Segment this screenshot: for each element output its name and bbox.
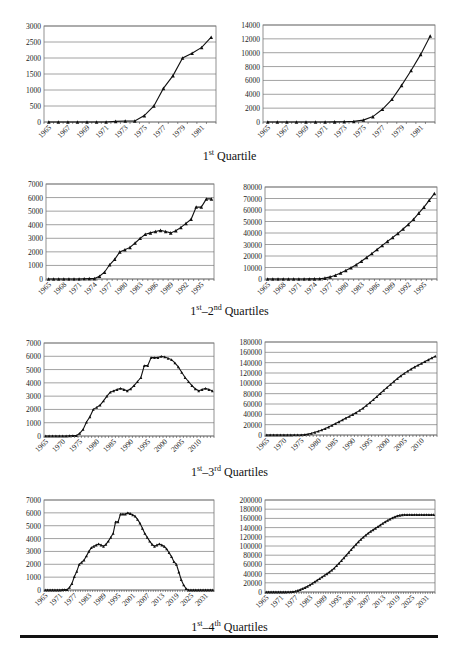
svg-text:1980: 1980: [333, 280, 350, 297]
svg-text:6000: 6000: [28, 194, 43, 203]
svg-text:1989: 1989: [158, 280, 175, 297]
chart-q1-annual: 0500100015002000250030001965196719691971…: [0, 0, 230, 140]
svg-text:30000: 30000: [243, 241, 262, 250]
svg-text:2000: 2000: [26, 560, 41, 569]
svg-text:2000: 2000: [245, 104, 260, 113]
svg-text:80000: 80000: [243, 390, 262, 399]
svg-text:2001: 2001: [120, 591, 137, 608]
svg-text:1968: 1968: [51, 280, 68, 297]
svg-text:80000: 80000: [243, 551, 262, 560]
svg-text:1971: 1971: [268, 593, 285, 610]
chart-q12-cumulative: 0100002000030000400005000060000700008000…: [229, 165, 459, 300]
svg-text:80000: 80000: [243, 183, 262, 192]
svg-text:7000: 7000: [28, 180, 43, 189]
svg-text:1979: 1979: [170, 123, 187, 140]
svg-text:1971: 1971: [286, 280, 303, 297]
svg-text:1983: 1983: [128, 280, 145, 297]
svg-text:1995: 1995: [189, 280, 206, 297]
svg-text:0: 0: [256, 118, 260, 127]
svg-text:1000: 1000: [26, 419, 41, 428]
svg-text:1977: 1977: [370, 123, 387, 140]
svg-text:500: 500: [30, 102, 42, 111]
svg-text:2007: 2007: [356, 593, 373, 610]
svg-text:40000: 40000: [243, 410, 262, 419]
caption-label: Quartiles: [222, 304, 269, 318]
svg-text:1969: 1969: [293, 123, 310, 140]
svg-text:3000: 3000: [26, 22, 41, 31]
svg-text:2031: 2031: [193, 591, 210, 608]
caption-q12: 1st–2nd Quartiles: [0, 303, 459, 319]
caption-q1234: 1st–4th Quartiles: [0, 619, 459, 635]
svg-text:1000: 1000: [28, 261, 43, 270]
svg-text:2000: 2000: [152, 437, 169, 454]
chart-q1234-annual: 0100020003000400050006000700019651971197…: [0, 485, 230, 620]
svg-text:2000: 2000: [26, 54, 41, 63]
svg-text:1973: 1973: [113, 123, 130, 140]
svg-text:60000: 60000: [243, 206, 262, 215]
svg-text:1980: 1980: [112, 280, 129, 297]
svg-text:2025: 2025: [178, 591, 195, 608]
svg-text:1973: 1973: [332, 123, 349, 140]
svg-text:1977: 1977: [62, 591, 79, 608]
svg-text:2019: 2019: [164, 591, 181, 608]
svg-text:100000: 100000: [240, 379, 263, 388]
svg-text:14000: 14000: [241, 21, 260, 30]
svg-text:1971: 1971: [94, 123, 111, 140]
svg-text:1983: 1983: [297, 593, 314, 610]
caption-sup2: rd: [214, 464, 221, 473]
svg-text:50000: 50000: [243, 218, 262, 227]
svg-text:1965: 1965: [254, 593, 271, 610]
svg-text:1971: 1971: [313, 123, 330, 140]
svg-text:60000: 60000: [243, 400, 262, 409]
caption-sup2: nd: [214, 303, 222, 312]
svg-text:6000: 6000: [26, 509, 41, 518]
svg-text:1995: 1995: [357, 436, 374, 453]
svg-text:2005: 2005: [169, 437, 186, 454]
svg-text:2010: 2010: [409, 436, 426, 453]
svg-text:1974: 1974: [82, 280, 99, 297]
svg-text:1975: 1975: [351, 123, 368, 140]
svg-text:1975: 1975: [132, 123, 149, 140]
chart-q1234-cumulative: 0200004000060000800001000001200001400001…: [229, 485, 459, 620]
svg-text:1967: 1967: [55, 123, 72, 140]
svg-text:1965: 1965: [254, 436, 271, 453]
svg-text:2000: 2000: [28, 248, 43, 257]
svg-text:1971: 1971: [47, 591, 64, 608]
svg-text:4000: 4000: [245, 90, 260, 99]
svg-text:1983: 1983: [76, 591, 93, 608]
svg-text:1969: 1969: [74, 123, 91, 140]
svg-text:2013: 2013: [370, 593, 387, 610]
svg-text:140000: 140000: [240, 359, 263, 368]
svg-text:1500: 1500: [26, 70, 41, 79]
bottom-rule: [20, 635, 438, 638]
caption-q123: 1st–3rd Quartiles: [0, 464, 459, 480]
svg-text:1965: 1965: [33, 437, 50, 454]
svg-text:5000: 5000: [26, 522, 41, 531]
svg-text:4000: 4000: [26, 379, 41, 388]
svg-text:7000: 7000: [26, 496, 41, 505]
svg-text:1995: 1995: [411, 280, 428, 297]
svg-text:1986: 1986: [365, 280, 382, 297]
svg-text:4000: 4000: [28, 221, 43, 230]
svg-text:1985: 1985: [323, 436, 340, 453]
svg-text:6000: 6000: [245, 76, 260, 85]
svg-text:0: 0: [37, 118, 41, 127]
svg-text:3000: 3000: [26, 392, 41, 401]
svg-text:2025: 2025: [399, 593, 416, 610]
svg-text:1981: 1981: [189, 123, 206, 140]
svg-text:6000: 6000: [26, 352, 41, 361]
svg-text:0: 0: [258, 275, 262, 284]
svg-text:120000: 120000: [240, 533, 263, 542]
svg-text:2000: 2000: [26, 405, 41, 414]
svg-text:1981: 1981: [408, 123, 425, 140]
svg-text:1979: 1979: [389, 123, 406, 140]
svg-text:3000: 3000: [26, 547, 41, 556]
svg-text:20000: 20000: [243, 421, 262, 430]
svg-text:1974: 1974: [302, 280, 319, 297]
svg-text:160000: 160000: [240, 348, 263, 357]
chart-q123-cumulative: 0200004000060000800001000001200001400001…: [229, 325, 459, 460]
svg-text:1977: 1977: [318, 280, 335, 297]
svg-text:1977: 1977: [283, 593, 300, 610]
svg-text:1980: 1980: [84, 437, 101, 454]
svg-text:1977: 1977: [97, 280, 114, 297]
